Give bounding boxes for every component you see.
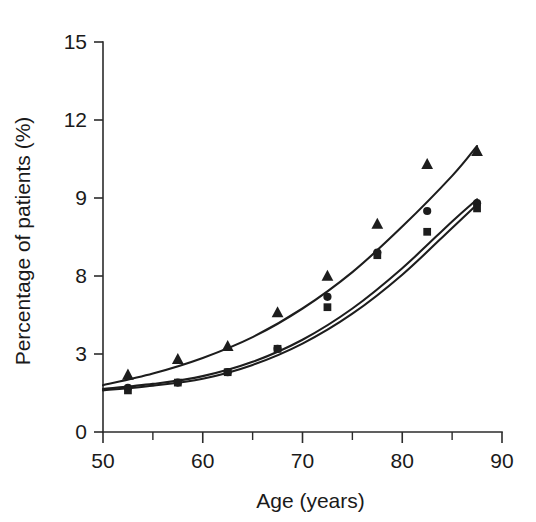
square-marker (423, 228, 431, 236)
y-tick-label: 9 (75, 186, 87, 209)
y-tick-label: 3 (75, 342, 87, 365)
y-tick-label: 15 (64, 30, 87, 53)
y-axis-title: Percentage of patients (%) (11, 117, 34, 366)
triangle-marker (421, 158, 433, 169)
lower-fit-curve (103, 205, 477, 391)
axis-labels: 038912155060708090Age (years)Percentage … (11, 30, 514, 512)
y-tick-label: 0 (75, 420, 87, 443)
x-tick-label: 80 (391, 449, 414, 472)
triangle-marker (172, 353, 184, 364)
data-markers (122, 145, 483, 394)
square-marker (373, 251, 381, 259)
square-marker (224, 368, 232, 376)
square-marker (324, 303, 332, 311)
square-marker (473, 205, 481, 213)
x-tick-label: 70 (291, 449, 314, 472)
square-marker (124, 387, 132, 395)
fit-curves (103, 146, 477, 390)
chart-figure: 038912155060708090Age (years)Percentage … (0, 0, 536, 522)
triangle-marker (371, 218, 383, 229)
triangle-marker (272, 306, 284, 317)
x-tick-label: 90 (490, 449, 513, 472)
x-axis-title: Age (years) (256, 489, 365, 512)
circle-marker (423, 207, 431, 215)
triangle-marker (322, 270, 334, 281)
x-tick-label: 60 (191, 449, 214, 472)
x-tick-label: 50 (91, 449, 114, 472)
y-tick-label: 8 (75, 264, 87, 287)
y-tick-label: 12 (64, 108, 87, 131)
circle-marker (323, 293, 331, 301)
square-marker (274, 345, 282, 353)
middle-fit-curve (103, 199, 477, 389)
square-marker (174, 379, 182, 387)
scatter-plot: 038912155060708090Age (years)Percentage … (0, 0, 536, 522)
triangle-marker (122, 369, 134, 380)
